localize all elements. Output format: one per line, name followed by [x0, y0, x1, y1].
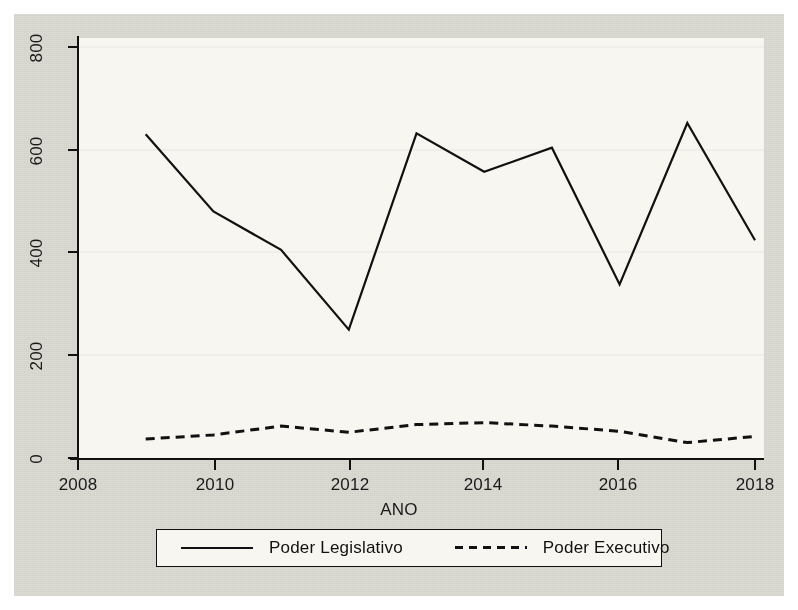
dashed-line-key-icon: [455, 542, 527, 554]
x-tick-label-2018: 2018: [715, 475, 795, 495]
x-tick-label-2016: 2016: [578, 475, 658, 495]
y-tick-label-600: 600: [27, 130, 47, 172]
series-line-poder-executivo: [146, 423, 755, 443]
x-tick-label-2010: 2010: [175, 475, 255, 495]
y-tick-label-400: 400: [27, 232, 47, 274]
axis-lines: [70, 36, 764, 459]
gridlines: [78, 47, 764, 355]
legend-label-poder-legislativo: Poder Legislativo: [269, 538, 403, 558]
y-tick-label-0: 0: [27, 446, 47, 472]
series-line-poder-legislativo: [146, 123, 755, 330]
x-tick-label-2008: 2008: [38, 475, 118, 495]
x-tick-label-2012: 2012: [310, 475, 390, 495]
y-tick-marks: [68, 47, 78, 458]
x-tick-marks: [78, 459, 755, 470]
x-axis-title: ANO: [349, 500, 449, 520]
y-tick-label-200: 200: [27, 335, 47, 377]
chart-legend: Poder Legislativo Poder Executivo: [156, 529, 662, 567]
legend-entry-poder-legislativo[interactable]: Poder Legislativo: [181, 538, 403, 558]
solid-line-key-icon: [181, 542, 253, 554]
x-tick-label-2014: 2014: [443, 475, 523, 495]
legend-entry-poder-executivo[interactable]: Poder Executivo: [455, 538, 670, 558]
y-tick-label-800: 800: [27, 27, 47, 69]
legend-label-poder-executivo: Poder Executivo: [543, 538, 670, 558]
chart-screenshot: 800 600 400 200 0 2008 2010 2012 2014 20…: [0, 0, 798, 610]
